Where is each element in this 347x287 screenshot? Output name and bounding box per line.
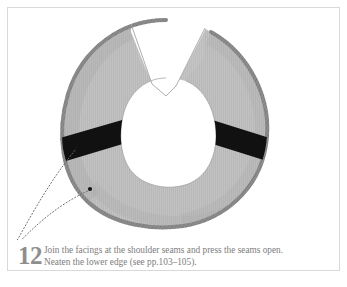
facing-illustration-svg bbox=[0, 0, 347, 240]
marker-dot-shoulder-seam bbox=[74, 146, 78, 150]
caption-line-2: Neaten the lower edge (see pp.103–105). bbox=[44, 256, 333, 268]
caption-line-1: Join the facings at the shoulder seams a… bbox=[44, 244, 333, 256]
sewing-illustration bbox=[0, 0, 347, 240]
marker-dot-lower-edge bbox=[88, 187, 92, 191]
step-caption: 12 Join the facings at the shoulder seam… bbox=[18, 240, 333, 272]
step-number: 12 bbox=[18, 240, 42, 269]
caption-text: Join the facings at the shoulder seams a… bbox=[44, 240, 333, 268]
page-root: 12 Join the facings at the shoulder seam… bbox=[0, 0, 347, 287]
facing-body bbox=[40, 10, 290, 235]
